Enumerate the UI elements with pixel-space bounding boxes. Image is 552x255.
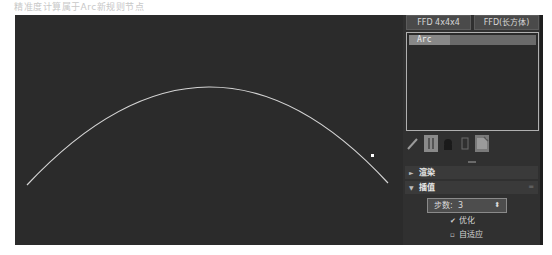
pin-icon [408, 139, 417, 149]
checkmark-icon: ✔ [450, 216, 457, 227]
panel-divider-handle[interactable] [468, 161, 476, 163]
section-interpolation[interactable]: ▼ 插值 = [405, 181, 538, 194]
modifier-stack-toolbar [406, 135, 537, 153]
steps-stepper[interactable]: 步数: 3 ⬍ [427, 198, 507, 213]
list-item-label: Arc [409, 35, 450, 45]
command-panel: FFD 4x4x4 FFD(长方体) Arc ► 渲染 ▼ 插值 = 步数: [403, 15, 543, 245]
make-unique-button[interactable] [441, 135, 455, 152]
section-rendering[interactable]: ► 渲染 [405, 166, 538, 179]
pin-stack-button[interactable] [406, 135, 420, 152]
list-item[interactable]: Arc [409, 35, 536, 45]
section-close-icon: = [528, 181, 534, 194]
configure-modifier-sets-button[interactable] [475, 135, 489, 152]
steps-input[interactable]: 3 [458, 199, 463, 212]
remove-modifier-button[interactable] [458, 135, 472, 152]
spinner-icon[interactable]: ⬍ [494, 199, 500, 212]
adaptive-checkbox[interactable]: ▫自适应 [450, 229, 483, 241]
collapse-icon: ▼ [409, 181, 414, 194]
show-end-result-button[interactable] [424, 135, 438, 152]
page-caption: 精准度计算属于Arc新规则节点 [14, 0, 144, 13]
trash-icon [462, 138, 468, 149]
arc-curve[interactable] [15, 15, 403, 245]
ffd-box-button[interactable]: FFD(长方体) [474, 15, 539, 30]
optimize-checkbox[interactable]: ✔优化 [450, 215, 475, 227]
modifier-stack-list[interactable]: Arc [406, 32, 539, 131]
configure-icon [477, 138, 487, 149]
expand-icon: ► [409, 166, 414, 179]
ffd-444-button[interactable]: FFD 4x4x4 [406, 15, 471, 30]
viewport[interactable] [15, 15, 403, 245]
unchecked-box-icon: ▫ [450, 230, 457, 241]
show-end-result-icon [428, 138, 430, 149]
cursor-point-icon [371, 154, 374, 157]
